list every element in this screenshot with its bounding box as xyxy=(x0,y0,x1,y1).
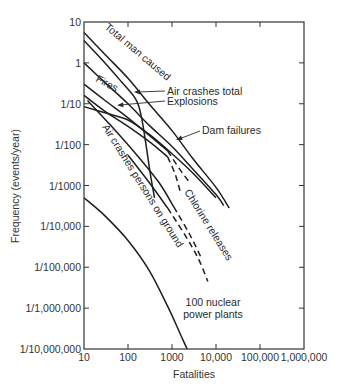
y-tick-label: 1/10,000,000 xyxy=(20,343,81,355)
y-tick-label: 1/10 xyxy=(61,98,82,110)
x-tick-label: 1000 xyxy=(160,351,184,363)
y-tick-label: 10 xyxy=(69,16,81,28)
x-tick-label: 1,000,000 xyxy=(281,351,328,363)
label-chlorine-releases: Chlorine releases xyxy=(182,187,235,263)
arrowhead-icon xyxy=(134,90,140,95)
y-tick-label: 1/1,000,000 xyxy=(26,302,82,314)
y-axis-title: Frequency (events/year) xyxy=(9,129,21,243)
y-tick-label: 1/100,000 xyxy=(34,261,81,273)
label-explosions: Explosions xyxy=(167,95,218,107)
label-nuclear-line1: 100 nuclear xyxy=(186,296,241,308)
y-tick-label: 1 xyxy=(75,57,81,69)
curve-fires xyxy=(84,84,168,151)
x-tick-label: 10,000 xyxy=(200,351,232,363)
y-tick-label: 1/10,000 xyxy=(40,220,81,232)
arrowhead-icon xyxy=(117,103,124,108)
y-tick-label: 1/1000 xyxy=(49,180,81,192)
label-air-crashes-ground: Air crashes persons on ground xyxy=(100,122,186,250)
x-tick-label: 100 xyxy=(119,351,137,363)
risk-frequency-chart: 10100100010,000100,0001,000,000 1011/101… xyxy=(0,0,347,388)
x-tick-label: 100,000 xyxy=(241,351,279,363)
x-axis-title: Fatalities xyxy=(173,368,215,380)
y-tick-label: 1/100 xyxy=(55,139,81,151)
curve-dam-failures-dashed xyxy=(168,157,181,195)
leader-air-crashes-total xyxy=(137,91,165,92)
label-dam-failures: Dam failures xyxy=(202,124,261,136)
leader-dam-failures xyxy=(179,131,200,139)
label-nuclear-line2: power plants xyxy=(183,308,243,320)
